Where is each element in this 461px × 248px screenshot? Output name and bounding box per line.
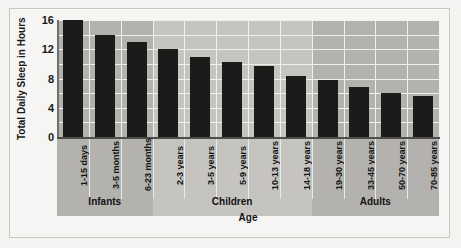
chart-figure: Total Daily Sleep in Hours 0481216 1-15 …	[0, 0, 461, 248]
bar	[349, 87, 369, 137]
category-separator	[375, 139, 376, 199]
category-label: 10-13 years	[248, 139, 280, 191]
category-separator	[153, 139, 154, 199]
x-axis-title: Age	[57, 212, 439, 223]
y-tick-label: 16	[32, 15, 54, 25]
y-tick-label: 4	[32, 103, 54, 113]
y-tick-label: 0	[32, 132, 54, 142]
category-separator	[184, 139, 185, 199]
bar	[158, 49, 178, 137]
bar	[318, 80, 338, 137]
bar	[381, 93, 401, 137]
x-axis-group-labels: InfantsChildrenAdults	[57, 196, 439, 210]
group-label-infants: Infants	[57, 196, 153, 207]
group-label-children: Children	[153, 196, 312, 207]
category-label: 33-45 years	[344, 139, 376, 191]
category-separator	[344, 139, 345, 199]
category-label: 2-3 years	[153, 139, 185, 191]
category-label: 50-70 years	[375, 139, 407, 191]
bar-series	[57, 20, 439, 137]
category-label: 1-15 days	[57, 139, 89, 191]
bar	[286, 76, 306, 137]
category-separator	[89, 139, 90, 199]
category-label: 70-85 years	[407, 139, 439, 191]
category-label: 3-5 years	[184, 139, 216, 191]
bar	[222, 62, 242, 137]
category-label: 5-9 years	[216, 139, 248, 191]
bar	[190, 57, 210, 137]
y-tick-label: 8	[32, 74, 54, 84]
category-separator	[280, 139, 281, 199]
x-axis-category-labels: 1-15 days3-5 months6-23 months2-3 years3…	[57, 139, 439, 191]
category-separator	[121, 139, 122, 199]
y-axis-tick-labels: 0481216	[30, 20, 54, 137]
bar	[95, 35, 115, 137]
category-label: 14-18 years	[280, 139, 312, 191]
category-separator	[248, 139, 249, 199]
bar	[127, 42, 147, 137]
category-label: 19-30 years	[312, 139, 344, 191]
bar	[254, 66, 274, 137]
category-separator	[312, 139, 313, 199]
bar	[63, 20, 83, 137]
bar	[413, 96, 433, 137]
y-axis-title: Total Daily Sleep in Hours	[14, 22, 28, 136]
category-separator	[216, 139, 217, 199]
category-label: 3-5 months	[89, 139, 121, 191]
group-label-adults: Adults	[312, 196, 439, 207]
category-label: 6-23 months	[121, 139, 153, 191]
category-separator	[407, 139, 408, 199]
y-tick-label: 12	[32, 44, 54, 54]
